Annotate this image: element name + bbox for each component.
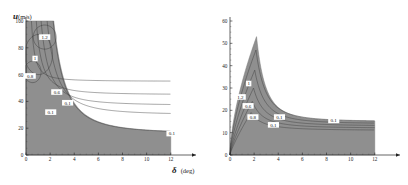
- x-tick-label: 10: [144, 156, 150, 162]
- x-tick-label: 2: [253, 156, 256, 162]
- y-tick-label: 30: [222, 85, 228, 91]
- contour-label: 0.1: [270, 123, 277, 128]
- chart-panel-left: u(m/s) δ (deg) 0246810120204060801001.21…: [0, 0, 204, 185]
- y-tick-label: 100: [16, 18, 24, 24]
- contour-label: 0.8: [27, 74, 34, 79]
- y-tick-label: 0: [21, 152, 24, 158]
- x-tick-label: 4: [277, 156, 280, 162]
- contour-label: 0.1: [48, 110, 55, 115]
- figure-root: u(m/s) δ (deg) 0246810120204060801001.21…: [0, 0, 408, 185]
- y-tick-label: 20: [222, 107, 228, 113]
- x-tick-label: 0: [25, 156, 28, 162]
- plot-area-left: 0246810120204060801001.210.80.60.10.10.1: [0, 0, 204, 185]
- y-tick-label: 20: [18, 125, 24, 131]
- contour-label: 0.6: [245, 104, 252, 109]
- contour-label: 1.2: [42, 35, 49, 40]
- x-tick-label: 12: [168, 156, 174, 162]
- x-tick-label: 6: [97, 156, 100, 162]
- contour-label: 0.1: [276, 115, 283, 120]
- contour-label: 0.1: [64, 101, 71, 106]
- y-tick-label: 10: [222, 130, 228, 136]
- contour-label: 1.2: [237, 95, 244, 100]
- x-tick-label: 4: [73, 156, 76, 162]
- x-tick-label: 12: [372, 156, 378, 162]
- x-tick-label: 8: [121, 156, 124, 162]
- y-tick-label: 40: [222, 63, 228, 69]
- y-tick-label: 60: [222, 18, 228, 24]
- contour-label: 0.8: [250, 115, 257, 120]
- x-tick-label: 6: [301, 156, 304, 162]
- contour-label: 0.1: [169, 131, 176, 136]
- x-tick-label: 2: [49, 156, 52, 162]
- plot-area-right: 024681012010203040506011.20.60.80.10.10.…: [204, 0, 408, 185]
- x-tick-label: 0: [229, 156, 232, 162]
- chart-panel-right: ay(m/s2) δ (deg) 02468101201020304050601…: [204, 0, 408, 185]
- y-tick-label: 40: [18, 98, 24, 104]
- y-tick-label: 50: [222, 40, 228, 46]
- y-tick-label: 60: [18, 72, 24, 78]
- y-tick-label: 80: [18, 45, 24, 51]
- contour-label: 0.6: [54, 90, 61, 95]
- y-tick-label: 0: [225, 152, 228, 158]
- x-tick-label: 10: [348, 156, 354, 162]
- x-tick-label: 8: [325, 156, 328, 162]
- contour-label: 0.1: [331, 118, 338, 123]
